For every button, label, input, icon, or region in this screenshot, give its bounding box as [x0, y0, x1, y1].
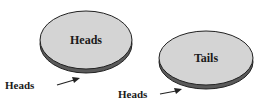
coin-heads-heads: Heads Heads: [5, 11, 132, 91]
bottom-side-label: Heads: [5, 79, 35, 91]
arrow-icon: [160, 88, 182, 94]
coin-diagram: Heads Heads Tails Heads: [0, 0, 269, 106]
coin-tails-heads: Tails Heads: [118, 31, 253, 100]
coin-face-label: Heads: [70, 33, 102, 47]
bottom-side-label: Heads: [118, 88, 148, 100]
coin-face-label: Tails: [194, 51, 219, 65]
arrow-icon: [57, 77, 80, 85]
